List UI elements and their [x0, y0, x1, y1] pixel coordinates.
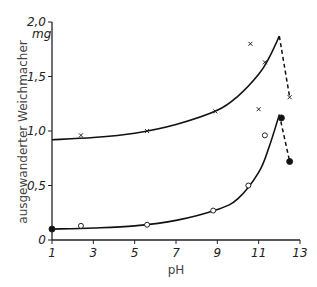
x-tick-label: 13	[292, 246, 307, 260]
x-tick-label: 1	[48, 246, 56, 260]
open-circle-marker	[262, 133, 267, 138]
x-tick-label: 5	[131, 246, 139, 260]
y-axis-title: ausgewanderter Weichmacher	[16, 40, 30, 223]
x-tick-label: 3	[90, 246, 98, 260]
x-axis-title: pH	[168, 263, 185, 277]
x-marker	[79, 133, 83, 137]
fit-curve	[52, 36, 279, 140]
x-tick-label: 7	[172, 246, 180, 260]
fit-curve	[52, 115, 279, 229]
chart: 13579111300,51,01,52,0 pH ausgewanderter…	[0, 0, 317, 287]
data-markers	[49, 42, 293, 232]
x-tick-label: 9	[214, 246, 222, 260]
fit-curves	[52, 36, 290, 229]
y-tick-label: 0	[38, 233, 46, 247]
x-marker	[288, 95, 292, 99]
filled-circle-marker	[287, 159, 293, 165]
filled-circle-marker	[49, 226, 55, 232]
dashed-segment	[279, 36, 289, 97]
filled-circle-marker	[278, 115, 284, 121]
x-marker	[248, 42, 252, 46]
x-tick-label: 11	[251, 246, 266, 260]
y-unit-label: mg	[32, 27, 52, 41]
x-marker	[257, 107, 261, 111]
open-circle-marker	[145, 222, 150, 227]
open-circle-marker	[78, 223, 83, 228]
dashed-segment	[279, 115, 289, 162]
open-circle-marker	[211, 208, 216, 213]
open-circle-marker	[246, 183, 251, 188]
